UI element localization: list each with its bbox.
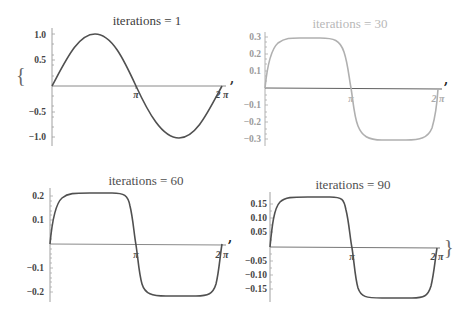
left-brace: { (16, 64, 26, 86)
panel-title: iterations = 30 (312, 16, 387, 31)
y-tick-label: −0.3 (244, 134, 262, 144)
y-tick-label: −0.2 (244, 117, 262, 127)
y-tick-label: −0.05 (245, 256, 267, 266)
y-tick-label: 1.0 (34, 30, 46, 40)
panel-iterations-30: iterations = 30 0.3 0.2 0.1 −0.1 −0.2 −0… (244, 16, 448, 146)
right-brace: } (444, 236, 454, 258)
y-tick-label: 0.3 (249, 32, 261, 42)
axis-label-mark: , (230, 72, 234, 86)
axis-label-mark: , (228, 231, 232, 245)
axis-label-mark: , (444, 73, 448, 87)
y-tick-label: 0.05 (250, 227, 267, 237)
y-tick-label: 0.2 (32, 191, 44, 201)
y-tick-label: 0.10 (250, 213, 267, 223)
chart-grid: iterations = 1 1.0 0.5 −0.5 −1.0 π 2 π ,… (0, 0, 469, 309)
y-tick-label: 0.15 (250, 199, 267, 209)
panel-iterations-90: iterations = 90 0.15 0.10 0.05 −0.05 −0.… (245, 177, 454, 302)
panel-iterations-1: iterations = 1 1.0 0.5 −0.5 −1.0 π 2 π ,… (16, 13, 234, 146)
panel-title: iterations = 60 (108, 173, 183, 188)
x-axis (265, 88, 442, 89)
y-tick-label: −0.15 (245, 284, 267, 294)
y-tick-label: 0.2 (249, 49, 261, 59)
y-tick-label: −0.2 (27, 287, 45, 297)
y-tick-label: 0.5 (34, 55, 46, 65)
y-tick-label: −0.10 (245, 270, 267, 280)
x-axis (270, 247, 440, 248)
panel-title: iterations = 90 (315, 177, 390, 192)
x-axis (50, 244, 226, 245)
y-tick-label: −1.0 (29, 132, 47, 142)
y-tick-label: 0.1 (32, 215, 44, 225)
y-tick-label: −0.1 (27, 263, 45, 273)
panel-iterations-60: iterations = 60 0.2 0.1 −0.1 −0.2 π 2 π … (27, 173, 232, 302)
y-tick-label: 0.1 (249, 66, 261, 76)
y-tick-label: −0.1 (244, 100, 262, 110)
y-tick-label: −0.5 (29, 107, 47, 117)
panel-title: iterations = 1 (113, 13, 182, 28)
